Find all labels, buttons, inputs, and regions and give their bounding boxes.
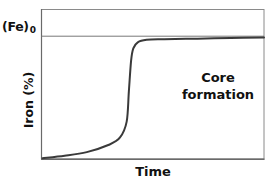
fe0-label-main: (Fe)	[2, 19, 29, 34]
fe0-label: (Fe)0	[2, 19, 36, 35]
annotation-line-2: formation	[173, 86, 263, 103]
annotation-line-1: Core	[173, 69, 263, 86]
fe0-label-subscript: 0	[30, 25, 36, 35]
x-axis-label: Time	[135, 164, 171, 179]
core-formation-annotation: Core formation	[173, 69, 263, 103]
y-axis-label: Iron (%)	[21, 72, 36, 129]
